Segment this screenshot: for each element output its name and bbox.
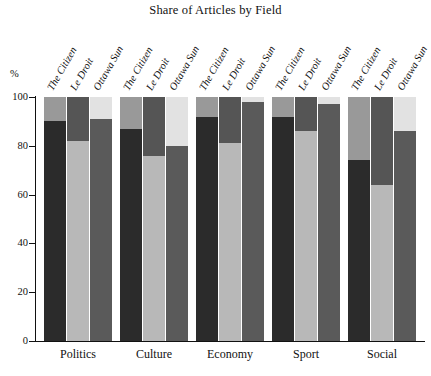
y-axis-tick-label: 40 — [2, 238, 28, 249]
chart-title: Share of Articles by Field — [0, 3, 431, 18]
series-label-text: Ottawa Sun — [320, 44, 354, 92]
series-label-text: Ottawa Sun — [396, 44, 430, 92]
bar-segment — [120, 129, 142, 341]
bar-segment — [90, 119, 112, 341]
series-label-text: Ottawa Sun — [92, 44, 126, 92]
x-axis-category-label: Social — [337, 347, 427, 362]
bar-segment — [348, 97, 370, 160]
bar-segment — [67, 97, 89, 141]
bar-group: The CitizenLe DroitOttawa Sun — [44, 97, 112, 341]
y-axis-tick-label: 20 — [2, 287, 28, 298]
y-axis-tick — [29, 97, 36, 98]
bar-segment — [394, 97, 416, 131]
bar-segment — [44, 97, 66, 121]
bar-stack[interactable] — [143, 97, 165, 341]
bar-group: The CitizenLe DroitOttawa Sun — [348, 97, 416, 341]
bar-segment — [166, 146, 188, 341]
bar-segment — [295, 131, 317, 341]
bar-segment — [67, 141, 89, 341]
bar-group: The CitizenLe DroitOttawa Sun — [120, 97, 188, 341]
bar-segment — [295, 97, 317, 131]
bar-segment — [348, 160, 370, 341]
bar-segment — [90, 97, 112, 119]
bar-stack[interactable] — [242, 97, 264, 341]
bar-group: The CitizenLe DroitOttawa Sun — [196, 97, 264, 341]
x-axis-line — [35, 341, 425, 342]
y-axis-tick — [29, 146, 36, 147]
bar-segment — [371, 185, 393, 341]
bar-stack[interactable] — [318, 97, 340, 341]
bar-group: The CitizenLe DroitOttawa Sun — [272, 97, 340, 341]
y-axis-line — [35, 96, 36, 342]
y-axis-tick — [29, 292, 36, 293]
bar-stack[interactable] — [219, 97, 241, 341]
bar-stack[interactable] — [166, 97, 188, 341]
bar-stack[interactable] — [348, 97, 370, 341]
y-axis-tick — [29, 243, 36, 244]
bar-segment — [196, 117, 218, 341]
y-axis-tick-label: 60 — [2, 190, 28, 201]
bar-segment — [143, 156, 165, 341]
y-axis-tick-label: 80 — [2, 141, 28, 152]
bar-stack[interactable] — [44, 97, 66, 341]
bar-segment — [166, 97, 188, 146]
bar-stack[interactable] — [196, 97, 218, 341]
bar-segment — [44, 121, 66, 341]
bar-stack[interactable] — [120, 97, 142, 341]
bar-stack[interactable] — [90, 97, 112, 341]
y-axis-tick-label: 100 — [2, 92, 28, 103]
bar-segment — [143, 97, 165, 156]
series-label-text: Ottawa Sun — [168, 44, 202, 92]
bar-segment — [272, 97, 294, 117]
bar-segment — [394, 131, 416, 341]
y-axis-tick — [29, 195, 36, 196]
bar-segment — [196, 97, 218, 117]
bar-segment — [318, 104, 340, 341]
bar-stack[interactable] — [394, 97, 416, 341]
bar-segment — [318, 97, 340, 104]
y-axis-tick-label: 0 — [2, 336, 28, 347]
bar-stack[interactable] — [371, 97, 393, 341]
bar-segment — [219, 97, 241, 143]
plot-area: The CitizenLe DroitOttawa SunThe Citizen… — [42, 97, 423, 341]
bar-segment — [242, 102, 264, 341]
bar-stack[interactable] — [295, 97, 317, 341]
bar-segment — [272, 117, 294, 341]
bar-segment — [219, 143, 241, 341]
bar-stack[interactable] — [272, 97, 294, 341]
series-label-text: Ottawa Sun — [244, 44, 278, 92]
bar-stack[interactable] — [67, 97, 89, 341]
chart-container: Share of Articles by Field % 10080604020… — [0, 0, 431, 376]
bar-segment — [371, 97, 393, 185]
y-axis-tick-labels: 100806040200 — [0, 0, 30, 376]
bar-segment — [120, 97, 142, 129]
y-axis-tick — [29, 341, 36, 342]
